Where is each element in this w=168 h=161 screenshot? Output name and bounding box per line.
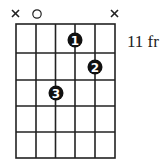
- chord-diagram: 1 2 3: [0, 0, 168, 161]
- fret-position-label: 11 fr: [127, 32, 159, 52]
- svg-text:2: 2: [91, 61, 99, 75]
- fretboard-border: [16, 24, 115, 158]
- finger-dot-3: 3: [49, 86, 64, 101]
- finger-dot-1: 1: [68, 33, 83, 48]
- svg-text:1: 1: [71, 34, 79, 48]
- svg-text:3: 3: [52, 87, 60, 101]
- fretboard-grid: [16, 24, 115, 158]
- muted-string-marker: [12, 10, 19, 17]
- muted-string-marker: [111, 10, 118, 17]
- finger-dot-2: 2: [88, 60, 103, 75]
- open-string-marker: [33, 10, 41, 18]
